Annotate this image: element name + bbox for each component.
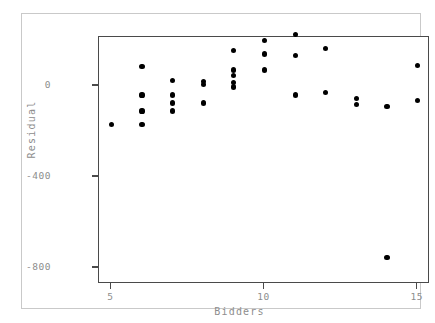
data-point <box>139 108 144 113</box>
y-axis-title: Residual <box>26 101 37 159</box>
data-point <box>170 78 175 83</box>
data-point <box>170 92 175 97</box>
y-axis-tick <box>92 266 98 267</box>
y-axis-tick-label: -800 <box>26 262 51 272</box>
x-axis-title: Bidders <box>22 306 435 317</box>
x-axis-tick-label: 15 <box>397 291 435 302</box>
data-point <box>262 67 267 72</box>
data-point <box>293 53 298 58</box>
y-axis-tick-label: -400 <box>26 171 51 181</box>
x-axis-tick-label: 5 <box>90 291 130 302</box>
data-point <box>109 122 114 127</box>
x-axis-tick <box>263 283 264 289</box>
y-axis-tick <box>92 84 98 85</box>
data-point <box>354 102 359 107</box>
data-point <box>231 84 236 89</box>
x-axis-tick-label: 10 <box>244 291 284 302</box>
data-point <box>415 98 420 103</box>
data-point <box>139 122 144 127</box>
data-point <box>139 92 144 97</box>
data-point <box>231 73 236 78</box>
data-point <box>201 82 206 87</box>
data-point <box>201 100 206 105</box>
scatter-plot-figure: 0-400-80051015 Residual Bidders <box>0 0 435 323</box>
x-axis-tick <box>416 283 417 289</box>
data-point <box>293 92 298 97</box>
y-axis-tick <box>92 175 98 176</box>
data-points-layer <box>99 37 428 282</box>
data-point <box>354 96 359 101</box>
data-point <box>384 255 389 260</box>
data-point <box>415 63 420 68</box>
data-point <box>262 38 267 43</box>
data-point <box>139 64 144 69</box>
plot-panel <box>98 36 429 283</box>
data-point <box>384 104 389 109</box>
data-point <box>262 51 267 56</box>
data-point <box>323 90 328 95</box>
data-point <box>323 46 328 51</box>
y-axis-tick-label: 0 <box>45 80 51 90</box>
figure-outer-frame: 0-400-80051015 Residual Bidders <box>21 13 421 309</box>
data-point <box>293 32 298 37</box>
x-axis-tick <box>110 283 111 289</box>
data-point <box>170 100 175 105</box>
data-point <box>231 67 236 72</box>
data-point <box>231 48 236 53</box>
data-point <box>170 108 175 113</box>
